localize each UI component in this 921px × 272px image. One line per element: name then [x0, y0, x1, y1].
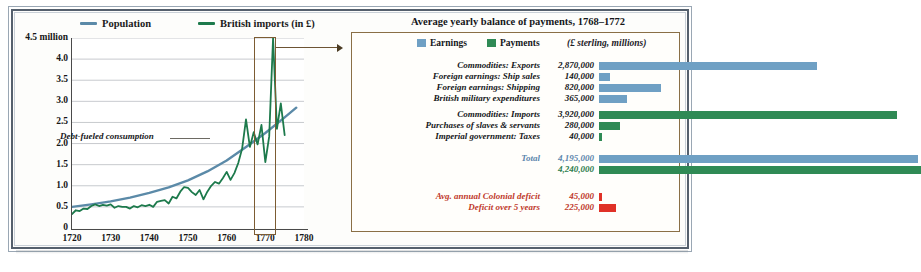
legend-item-payments: Payments: [487, 38, 540, 48]
bar-row-bar: [599, 73, 610, 81]
bar-row-label: Foreign earnings: Shipping: [357, 82, 540, 93]
bar-row-label: British military expenditures: [357, 93, 540, 104]
highlight-range-box: [254, 37, 276, 235]
bar-row-value: 3,920,000: [542, 109, 594, 120]
bar-row: Foreign earnings: Ship sales140,000: [349, 71, 687, 82]
legend-swatch-imports: [198, 22, 215, 25]
y-tick-label: 4.0: [56, 53, 68, 63]
legend-item-earnings: Earnings: [417, 38, 467, 48]
annotation-debt-fueled-consumption: Debt-fueled consumption: [60, 131, 154, 141]
legend-item-population: Population: [80, 18, 151, 29]
bar-row-value: 365,000: [542, 93, 594, 104]
bar-row: Avg. annual Colonial deficit45,000: [349, 191, 687, 202]
bar-row-label: Purchases of slaves & servants: [357, 120, 540, 131]
y-tick-label: 3.5: [56, 74, 68, 84]
x-tick-label: 1730: [91, 233, 131, 243]
bar-row: British military expenditures365,000: [349, 93, 687, 104]
x-tick-label: 1760: [207, 233, 247, 243]
bar-row: 4,240,000: [349, 164, 687, 175]
bar-row-label: Deficit over 5 years: [357, 202, 540, 213]
panel-legend: Earnings Payments (£ sterling, millions): [349, 38, 687, 52]
legend-swatch-payments: [487, 39, 496, 47]
bar-row-label: Imperial government: Taxes: [357, 131, 540, 142]
left-line-chart: Population British imports (in £) 4.5 mi…: [16, 14, 334, 244]
bar-row-bar: [599, 62, 817, 70]
bar-row-bar: [599, 204, 616, 212]
bar-row-value: 4,195,000: [542, 153, 594, 164]
x-tick-label: 1720: [52, 233, 92, 243]
bar-row-bar: [599, 155, 918, 163]
figure-drop-shadow: [16, 250, 688, 254]
bar-row-value: 820,000: [542, 82, 594, 93]
x-tick-label: 1740: [129, 233, 169, 243]
panel-title: Average yearly balance of payments, 1768…: [349, 16, 687, 27]
bar-row-label: Avg. annual Colonial deficit: [357, 191, 540, 202]
y-tick-label: 2.5: [56, 116, 68, 126]
bar-row: Commodities: Imports3,920,000: [349, 109, 687, 120]
bar-row-value: 4,240,000: [542, 164, 594, 175]
legend-swatch-population: [80, 22, 97, 25]
bar-row-bar: [599, 122, 620, 130]
legend-label-payments: Payments: [500, 38, 540, 48]
y-tick-label: 1.0: [56, 180, 68, 190]
x-tick-label: 1750: [168, 233, 208, 243]
bar-row: Commodities: Exports2,870,000: [349, 60, 687, 71]
bar-row: Total4,195,000: [349, 153, 687, 164]
bar-row-label: Commodities: Exports: [357, 60, 540, 71]
bar-row-bar: [599, 84, 661, 92]
bar-row-value: 280,000: [542, 120, 594, 131]
bar-row-bar: [599, 166, 921, 174]
callout-arrow-shaft: [276, 47, 338, 48]
y-tick-label: 4.5 million: [25, 32, 68, 42]
legend-label-population: Population: [102, 18, 151, 29]
y-tick-label: 0.5: [56, 201, 68, 211]
bar-row-value: 45,000: [542, 191, 594, 202]
legend-label-earnings: Earnings: [430, 38, 467, 48]
bar-row-value: 2,870,000: [542, 60, 594, 71]
bar-row-bar: [599, 111, 897, 119]
bar-row-value: 140,000: [542, 71, 594, 82]
bar-row-value: 40,000: [542, 131, 594, 142]
bar-row: Purchases of slaves & servants280,000: [349, 120, 687, 131]
y-tick-label: 3.0: [56, 95, 68, 105]
bar-row: Deficit over 5 years225,000: [349, 202, 687, 213]
callout-arrow-head: [337, 44, 343, 52]
bar-row-label: Commodities: Imports: [357, 109, 540, 120]
bar-row-label: Total: [357, 153, 540, 164]
legend-item-imports: British imports (in £): [198, 18, 315, 29]
x-tick-label: 1780: [284, 233, 324, 243]
bar-row: Imperial government: Taxes40,000: [349, 131, 687, 142]
bar-row: Foreign earnings: Shipping820,000: [349, 82, 687, 93]
bar-row-bar: [599, 95, 627, 103]
legend-label-imports: British imports (in £): [220, 18, 315, 29]
left-chart-legend: Population British imports (in £): [76, 18, 334, 34]
bar-row-bar: [599, 133, 602, 141]
annotation-leader-line: [170, 138, 210, 139]
y-tick-label: 1.5: [56, 159, 68, 169]
panel-unit-note: (£ sterling, millions): [567, 38, 646, 48]
y-tick-label: 0: [63, 222, 68, 232]
right-bar-panel: Average yearly balance of payments, 1768…: [349, 14, 687, 244]
bar-row-label: Foreign earnings: Ship sales: [357, 71, 540, 82]
bar-row-value: 225,000: [542, 202, 594, 213]
legend-swatch-earnings: [417, 39, 426, 47]
bar-row-bar: [599, 193, 602, 201]
